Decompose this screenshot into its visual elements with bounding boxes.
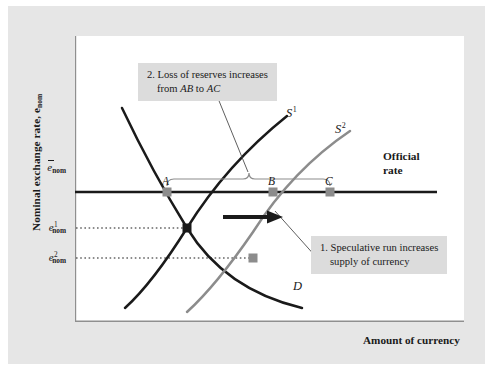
callout-speculative-run-line2: supply of currency xyxy=(320,255,409,269)
demand-curve xyxy=(122,108,302,308)
curve-label-s2-base: S xyxy=(335,122,341,136)
callout-loss-italic-ab: AB xyxy=(180,83,193,94)
point-label-a: A xyxy=(162,175,169,187)
official-rate-label-line2: rate xyxy=(383,164,403,176)
curve-label-d: D xyxy=(293,279,302,294)
y-tick-label-e-bar-nom: enom xyxy=(24,161,66,173)
marker-point-b xyxy=(269,188,278,197)
overbar xyxy=(48,160,54,161)
marker-equilibrium-e2 xyxy=(249,254,258,263)
curve-label-s2: S2 xyxy=(335,122,345,137)
point-label-c: C xyxy=(325,175,333,187)
y-tick-subscript-nom: nom xyxy=(52,256,66,265)
supply-curve-1 xyxy=(125,116,287,308)
callout-loss-of-reserves-line2: from AB to AC xyxy=(147,82,220,96)
marker-equilibrium-e1 xyxy=(183,224,192,233)
figure-background-mat: Nominal exchange rate, enom Amount of cu… xyxy=(8,6,485,364)
y-axis-title-subscript: nom xyxy=(35,94,44,108)
marker-point-c xyxy=(326,188,335,197)
callout-speculative-run-line1: 1. Speculative run increases xyxy=(320,242,438,253)
y-tick-subscript-nom: nom xyxy=(52,166,66,175)
curve-label-s1-base: S xyxy=(286,106,292,120)
callout-speculative-run: 1. Speculative run increases supply of c… xyxy=(311,236,447,274)
curve-label-s2-superscript: 2 xyxy=(342,121,346,130)
figure-root: Nominal exchange rate, enom Amount of cu… xyxy=(0,0,493,370)
callout-loss-line2-mid: to xyxy=(193,83,207,94)
callout-loss-line2-prefix: from xyxy=(157,83,180,94)
curve-label-s1-superscript: 1 xyxy=(293,105,297,114)
curve-label-s1: S1 xyxy=(286,106,296,121)
y-tick-label-e2-nom: e2nom xyxy=(24,251,66,263)
callout-loss-italic-ac: AC xyxy=(207,83,221,94)
brace-a-to-c xyxy=(167,173,330,186)
official-rate-label-line1: Official xyxy=(383,150,420,162)
callout-loss-of-reserves: 2. Loss of reserves increases from AB to… xyxy=(138,63,277,101)
x-axis-title: Amount of currency xyxy=(363,334,460,347)
official-rate-label: Official rate xyxy=(383,150,453,178)
point-label-b: B xyxy=(268,175,275,187)
marker-point-a xyxy=(163,188,172,197)
callout-loss-of-reserves-line1: 2. Loss of reserves increases xyxy=(147,69,268,80)
leader-line-loss-of-reserves xyxy=(215,91,248,172)
shift-arrow-right xyxy=(223,211,283,224)
y-tick-subscript-nom: nom xyxy=(52,226,66,235)
y-tick-label-e1-nom: e1nom xyxy=(24,221,66,233)
